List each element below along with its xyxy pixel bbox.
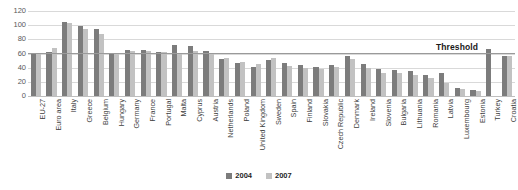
x-axis-tick: Romania (421, 97, 437, 167)
bar-2007 (177, 53, 182, 96)
x-axis-tick: Slovakia (311, 97, 327, 167)
y-axis-tick-label: 60 (2, 50, 26, 58)
x-axis-tick: Luxembourg (452, 97, 468, 167)
bar-2007 (350, 59, 355, 96)
bar-2007 (319, 69, 324, 96)
legend-item[interactable]: 2004 (226, 171, 252, 180)
bar-2007 (334, 67, 339, 96)
bar-2007 (287, 66, 292, 96)
x-axis-tick: Denmark (342, 97, 358, 167)
y-axis-tick-label: 20 (2, 78, 26, 86)
threshold-line (28, 53, 515, 55)
plot-area (28, 11, 515, 96)
legend-item[interactable]: 2007 (266, 171, 292, 180)
y-axis-tick-label: 100 (2, 21, 26, 29)
x-axis-tick: Finland (295, 97, 311, 167)
bar-chart: 020406080100120 Threshold EU-27Euro area… (0, 0, 518, 190)
x-axis-tick: Slovenia (373, 97, 389, 167)
y-axis-tick-label: 120 (2, 7, 26, 15)
x-axis-tick: Latvia (436, 97, 452, 167)
x-axis-tick: Ireland (358, 97, 374, 167)
bar-2007 (460, 89, 465, 96)
y-axis-tick-label: 0 (2, 92, 26, 100)
x-axis-tick: Croatia (499, 97, 515, 167)
x-axis-tick: Portugal (154, 97, 170, 167)
x-axis-tick: Cyprus (185, 97, 201, 167)
x-axis-tick: EU-27 (28, 97, 44, 167)
x-axis-tick: United Kingdom (248, 97, 264, 167)
x-axis-tick: Czech Republic (326, 97, 342, 167)
x-axis-tick: Malta (169, 97, 185, 167)
x-axis-tick: Bulgaria (389, 97, 405, 167)
x-axis-tick: Germany (122, 97, 138, 167)
y-axis: 020406080100120 (0, 11, 26, 96)
x-axis-tick: Austria (201, 97, 217, 167)
legend-label: 2007 (275, 171, 292, 180)
bar-2007 (444, 83, 449, 96)
bar-2007 (303, 68, 308, 96)
bar-2007 (381, 73, 386, 96)
threshold-label: Threshold (436, 42, 478, 52)
x-axis-tick: Greece (75, 97, 91, 167)
bar-2004 (486, 49, 491, 96)
bar-2007 (161, 52, 166, 96)
x-axis-tick: Spain (279, 97, 295, 167)
legend-swatch (226, 173, 232, 179)
bar-2007 (476, 91, 481, 96)
x-axis-tick: Netherlands (216, 97, 232, 167)
x-axis-tick: Poland (232, 97, 248, 167)
bar-2007 (397, 73, 402, 96)
bar-2007 (413, 75, 418, 96)
x-axis-tick-label: Croatia (510, 99, 518, 122)
x-axis-tick: France (138, 97, 154, 167)
x-axis-tick: Sweden (264, 97, 280, 167)
bar-2007 (256, 64, 261, 96)
x-axis-tick: Euro area (44, 97, 60, 167)
x-axis-tick: Lithuania (405, 97, 421, 167)
bar-2007 (146, 51, 151, 96)
bar-2007 (224, 58, 229, 96)
bar-2007 (36, 54, 41, 97)
bar-2007 (52, 48, 57, 96)
bar-2007 (271, 58, 276, 96)
x-axis-tick: Turkey (483, 97, 499, 167)
bar-2007 (114, 54, 119, 97)
bar-2007 (428, 78, 433, 96)
bar-2007 (67, 23, 72, 96)
legend-label: 2004 (235, 171, 252, 180)
y-axis-tick-label: 40 (2, 64, 26, 72)
bar-2007 (130, 51, 135, 96)
bar-2007 (240, 62, 245, 96)
bar-2007 (209, 54, 214, 97)
x-axis-tick: Estonia (468, 97, 484, 167)
x-axis-tick: Belgium (91, 97, 107, 167)
bar-2007 (99, 34, 104, 96)
bar-2007 (83, 29, 88, 96)
chart-legend: 20042007 (0, 171, 518, 180)
x-axis-tick: Hungary (107, 97, 123, 167)
x-axis-labels: EU-27Euro areaItalyGreeceBelgiumHungaryG… (28, 97, 515, 167)
x-axis-tick: Italy (59, 97, 75, 167)
bar-2007 (507, 56, 512, 96)
bar-2007 (193, 51, 198, 96)
legend-swatch (266, 173, 272, 179)
y-axis-tick-label: 80 (2, 35, 26, 43)
bar-2007 (366, 68, 371, 96)
